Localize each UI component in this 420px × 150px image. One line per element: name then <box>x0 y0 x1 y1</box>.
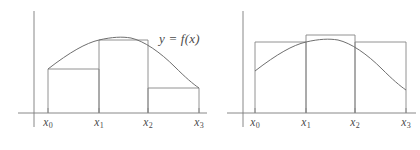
rectangle-3 <box>148 88 199 113</box>
figure-root: x0 x1 x2 x3 y = f(x) x0 <box>0 0 420 150</box>
rectangle-1 <box>255 42 306 113</box>
curve-equation-label: y = f(x) <box>159 31 200 47</box>
lower-sum-panel: x0 x1 x2 x3 y = f(x) <box>0 0 210 150</box>
upper-sum-plot <box>210 0 420 150</box>
rectangle-1 <box>48 69 99 113</box>
lower-sum-plot <box>0 0 210 150</box>
upper-sum-panel: x0 x1 x2 x3 <box>210 0 420 150</box>
rectangle-2 <box>99 40 148 113</box>
rectangle-2 <box>306 35 355 113</box>
function-curve <box>255 39 406 90</box>
